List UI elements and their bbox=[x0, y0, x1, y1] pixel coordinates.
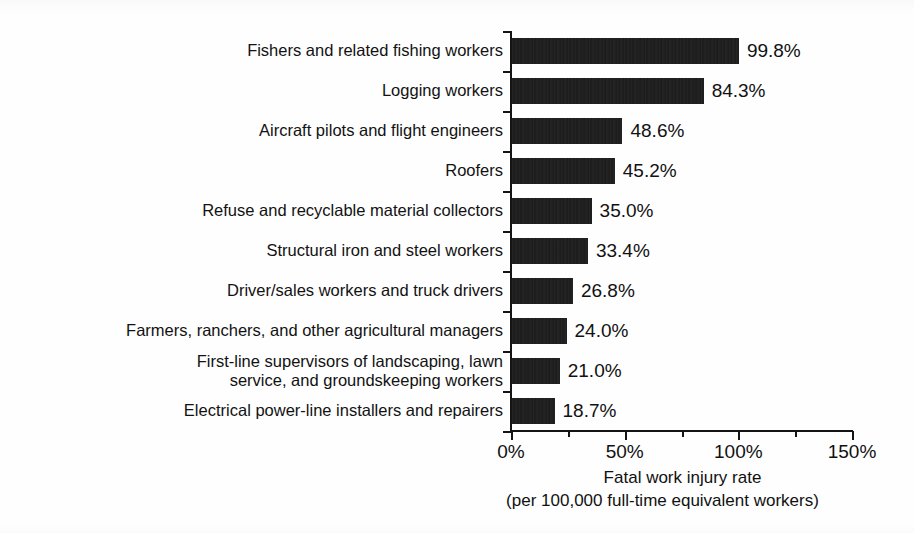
x-axis-tick-label: 50% bbox=[606, 441, 644, 463]
bar bbox=[512, 358, 560, 384]
bar-value-label: 21.0% bbox=[568, 359, 622, 383]
bar-row: Driver/sales workers and truck drivers26… bbox=[0, 271, 914, 311]
bar-value-label: 99.8% bbox=[747, 39, 801, 63]
bar-value-label: 24.0% bbox=[575, 319, 629, 343]
x-axis-tick-label: 100% bbox=[714, 441, 763, 463]
x-axis-minor-tick bbox=[795, 431, 797, 437]
bar-row: Aircraft pilots and flight engineers48.6… bbox=[0, 111, 914, 151]
bar-row: Farmers, ranchers, and other agricultura… bbox=[0, 311, 914, 351]
bar-value-label: 45.2% bbox=[623, 159, 677, 183]
bar bbox=[512, 38, 739, 64]
x-axis-tick-label: 0% bbox=[497, 441, 524, 463]
x-axis-title: Fatal work injury rate (per 100,000 full… bbox=[511, 466, 854, 512]
category-label: Refuse and recyclable material collector… bbox=[33, 201, 503, 220]
x-axis-major-tick bbox=[738, 431, 740, 440]
bar-row: Logging workers84.3% bbox=[0, 71, 914, 111]
x-axis-minor-tick bbox=[682, 431, 684, 437]
category-label: Electrical power-line installers and rep… bbox=[33, 401, 503, 420]
bar-value-label: 48.6% bbox=[630, 119, 684, 143]
x-axis-minor-tick bbox=[568, 431, 570, 437]
x-axis-title-line1: Fatal work injury rate bbox=[604, 468, 762, 487]
category-label: Roofers bbox=[33, 161, 503, 180]
category-label: First-line supervisors of landscaping, l… bbox=[33, 352, 503, 390]
x-axis-major-tick bbox=[625, 431, 627, 440]
bar bbox=[512, 398, 555, 424]
bar-row: Refuse and recyclable material collector… bbox=[0, 191, 914, 231]
bar-value-label: 35.0% bbox=[600, 199, 654, 223]
category-label: Fishers and related fishing workers bbox=[33, 41, 503, 60]
category-label: Aircraft pilots and flight engineers bbox=[33, 121, 503, 140]
bar bbox=[512, 198, 592, 224]
bar-row: First-line supervisors of landscaping, l… bbox=[0, 351, 914, 391]
x-axis-major-tick bbox=[511, 431, 513, 440]
bar-value-label: 18.7% bbox=[563, 399, 617, 423]
category-label: Driver/sales workers and truck drivers bbox=[33, 281, 503, 300]
bar bbox=[512, 278, 573, 304]
fatal-work-injury-rate-chart: 0%50%100%150% Fishers and related fishin… bbox=[0, 0, 914, 533]
plot-area: 0%50%100%150% Fishers and related fishin… bbox=[0, 0, 914, 533]
category-label: Structural iron and steel workers bbox=[33, 241, 503, 260]
bar-value-label: 84.3% bbox=[712, 79, 766, 103]
x-axis-major-tick bbox=[852, 431, 854, 440]
x-axis-tick-label: 150% bbox=[828, 441, 877, 463]
bar bbox=[512, 118, 622, 144]
bar bbox=[512, 78, 704, 104]
bar-row: Structural iron and steel workers33.4% bbox=[0, 231, 914, 271]
bar-value-label: 26.8% bbox=[581, 279, 635, 303]
bar-row: Fishers and related fishing workers99.8% bbox=[0, 31, 914, 71]
bar-row: Electrical power-line installers and rep… bbox=[0, 391, 914, 431]
bar bbox=[512, 238, 588, 264]
bar-value-label: 33.4% bbox=[596, 239, 650, 263]
bar bbox=[512, 318, 567, 344]
bar-row: Roofers45.2% bbox=[0, 151, 914, 191]
x-axis-title-line2: (per 100,000 full-time equivalent worker… bbox=[471, 489, 854, 512]
category-label: Farmers, ranchers, and other agricultura… bbox=[33, 321, 503, 340]
bar bbox=[512, 158, 615, 184]
category-label: Logging workers bbox=[33, 81, 503, 100]
y-axis-tick bbox=[503, 431, 511, 433]
